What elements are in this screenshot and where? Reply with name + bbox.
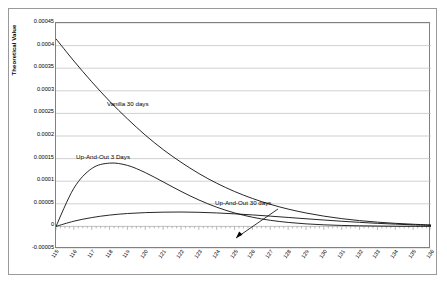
annotation-arrow-line (236, 209, 278, 238)
x-axis-tick-label: 133 (372, 249, 382, 259)
plot-svg (56, 23, 431, 249)
x-axis-tick-label: 117 (86, 249, 95, 259)
series-label-up-and-out-30-days: Up-And-Out 30 days (215, 200, 271, 206)
series-line-0 (56, 39, 431, 225)
x-axis-tick-label: 135 (408, 249, 418, 259)
x-axis-tick-label: 125 (229, 249, 239, 259)
x-axis-tick-label: 131 (337, 249, 347, 259)
x-axis-tick-label: 130 (319, 249, 329, 259)
series-label-vanilla-30-days: Vanilla 30 days (107, 101, 149, 107)
chart-container: Theoretical Value 0.000450.00040.000350.… (0, 0, 447, 295)
x-axis-tick-label: 120 (140, 249, 150, 259)
y-axis-title: Theoretical Value (11, 4, 17, 96)
y-axis-tick-labels: 0.000450.00040.000350.00030.000250.00020… (20, 22, 54, 248)
x-axis-tick-label: 128 (283, 249, 293, 259)
x-axis-tick-label: 126 (247, 249, 257, 259)
x-axis-tick-label: 118 (104, 249, 113, 259)
x-axis-tick-label: 122 (176, 249, 186, 259)
series-label-up-and-out-3-days: Up-And-Out 3 Days (76, 154, 130, 160)
y-axis-tick-label: 0.0002 (20, 132, 54, 138)
x-axis-tick-label: 124 (212, 249, 222, 259)
x-axis-tick-label: 116 (69, 249, 78, 259)
x-axis-tick-label: 127 (265, 249, 275, 259)
y-axis-tick-label: 0.00005 (20, 200, 54, 206)
annotation-arrow (236, 209, 278, 238)
x-axis-tick-label: 115 (51, 249, 60, 259)
x-axis-tick-label: 121 (158, 249, 168, 259)
x-axis-tick-label: 132 (354, 249, 364, 259)
x-axis-tick-marks (56, 226, 431, 230)
y-axis-tick-label: 0.0003 (20, 87, 54, 93)
plot-area (55, 22, 430, 248)
x-axis-tick-labels: 1151161171181191201211221231241251261271… (55, 249, 430, 273)
series-line-2 (56, 212, 431, 226)
x-axis-tick-label: 123 (194, 249, 204, 259)
y-axis-tick-label: -0.00005 (20, 245, 54, 251)
y-axis-tick-label: 0.00015 (20, 155, 54, 161)
x-axis-tick-label: 134 (390, 249, 400, 259)
y-axis-tick-label: 0.0001 (20, 177, 54, 183)
y-axis-tick-label: 0.00025 (20, 109, 54, 115)
y-axis-tick-label: 0.00045 (20, 19, 54, 25)
y-axis-tick-label: 0.00035 (20, 64, 54, 70)
annotation-arrow-head (236, 232, 243, 239)
x-axis-tick-label: 129 (301, 249, 311, 259)
y-axis-tick-label: 0.0004 (20, 42, 54, 48)
x-axis-tick-label: 119 (122, 249, 131, 259)
y-axis-tick-label: 0 (20, 222, 54, 228)
